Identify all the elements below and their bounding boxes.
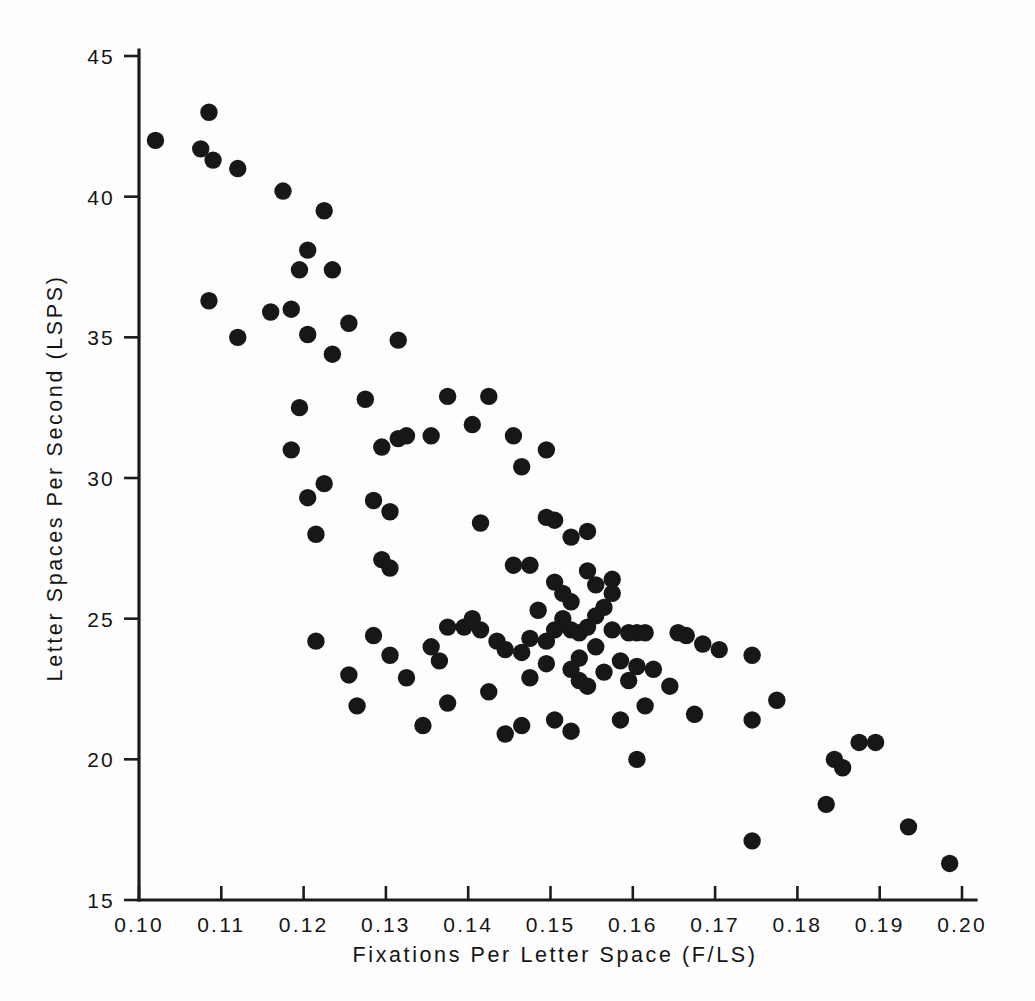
data-point: [464, 416, 481, 433]
data-point: [381, 647, 398, 664]
data-point: [834, 759, 851, 776]
data-point: [472, 514, 489, 531]
data-point: [299, 241, 316, 258]
data-point: [340, 315, 357, 332]
x-tick-label: 0.12: [279, 913, 329, 936]
data-point: [505, 427, 522, 444]
x-tick-label: 0.10: [114, 913, 164, 936]
data-point: [818, 796, 835, 813]
data-point: [365, 492, 382, 509]
x-tick-label: 0.19: [855, 913, 905, 936]
data-point: [480, 388, 497, 405]
data-point: [900, 818, 917, 835]
data-point: [636, 624, 653, 641]
data-point: [743, 647, 760, 664]
data-point: [604, 621, 621, 638]
data-point: [381, 559, 398, 576]
data-point: [204, 151, 221, 168]
data-point: [340, 666, 357, 683]
y-tick-label: 20: [87, 748, 115, 771]
data-point: [497, 641, 514, 658]
data-point: [529, 602, 546, 619]
data-point: [291, 261, 308, 278]
data-point: [686, 706, 703, 723]
data-point: [521, 557, 538, 574]
data-point: [147, 132, 164, 149]
data-point: [604, 571, 621, 588]
data-point: [497, 725, 514, 742]
y-tick-label: 45: [87, 45, 115, 68]
data-point: [200, 104, 217, 121]
y-tick-label: 30: [87, 467, 115, 490]
data-point: [867, 734, 884, 751]
data-point: [579, 523, 596, 540]
data-point: [274, 182, 291, 199]
x-tick-label: 0.20: [937, 913, 987, 936]
data-point: [620, 672, 637, 689]
data-point: [390, 331, 407, 348]
scatter-plot-figure: 152025303540450.100.110.120.130.140.150.…: [0, 0, 1035, 1001]
data-point: [587, 638, 604, 655]
x-tick-label: 0.18: [773, 913, 823, 936]
y-axis-label: Letter Spaces Per Second (LSPS): [43, 275, 67, 682]
data-point: [348, 697, 365, 714]
x-axis-label: Fixations Per Letter Space (F/LS): [353, 943, 758, 967]
data-point: [743, 711, 760, 728]
data-point: [229, 160, 246, 177]
y-tick-label: 40: [87, 186, 115, 209]
data-point: [513, 644, 530, 661]
data-point: [678, 627, 695, 644]
data-point: [439, 618, 456, 635]
data-point: [431, 652, 448, 669]
x-tick-label: 0.13: [361, 913, 411, 936]
data-point: [480, 683, 497, 700]
data-point: [562, 528, 579, 545]
data-point: [414, 717, 431, 734]
data-point: [538, 655, 555, 672]
data-point: [513, 458, 530, 475]
data-point: [315, 475, 332, 492]
data-point: [661, 677, 678, 694]
data-point: [439, 694, 456, 711]
data-point: [315, 202, 332, 219]
data-point: [850, 734, 867, 751]
data-point: [562, 593, 579, 610]
data-point: [579, 677, 596, 694]
data-point: [262, 303, 279, 320]
data-point: [636, 697, 653, 714]
data-point: [546, 711, 563, 728]
data-point: [628, 751, 645, 768]
data-point: [200, 292, 217, 309]
x-tick-label: 0.14: [443, 913, 493, 936]
data-point: [505, 557, 522, 574]
data-point: [283, 301, 300, 318]
data-point: [398, 669, 415, 686]
data-point: [299, 326, 316, 343]
data-point: [711, 641, 728, 658]
x-tick-label: 0.17: [690, 913, 740, 936]
data-point: [439, 388, 456, 405]
data-point: [513, 717, 530, 734]
data-point: [324, 346, 341, 363]
data-point: [587, 576, 604, 593]
data-point: [941, 855, 958, 872]
data-point: [587, 607, 604, 624]
data-point: [324, 261, 341, 278]
data-point: [538, 441, 555, 458]
data-point: [521, 669, 538, 686]
data-point: [283, 441, 300, 458]
x-tick-label: 0.16: [608, 913, 658, 936]
data-point: [595, 663, 612, 680]
data-point: [612, 652, 629, 669]
data-point: [307, 526, 324, 543]
x-tick-label: 0.15: [526, 913, 576, 936]
data-point: [562, 723, 579, 740]
y-tick-label: 25: [87, 608, 115, 631]
y-tick-label: 35: [87, 326, 115, 349]
data-point: [743, 832, 760, 849]
data-point: [546, 512, 563, 529]
data-point: [365, 627, 382, 644]
tick-labels-group: 152025303540450.100.110.120.130.140.150.…: [87, 45, 987, 936]
data-point: [694, 635, 711, 652]
data-point: [291, 399, 308, 416]
